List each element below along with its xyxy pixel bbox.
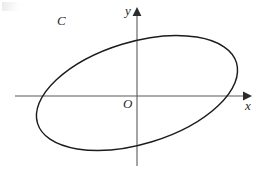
curve-label-c: C: [57, 14, 66, 27]
diagram-canvas: [0, 0, 263, 174]
origin-label: O: [123, 97, 132, 110]
x-axis-label: x: [245, 99, 251, 112]
y-axis-arrowhead-icon: [133, 7, 142, 16]
y-axis-label: y: [125, 4, 131, 17]
figure-container: y x O C: [0, 0, 263, 174]
